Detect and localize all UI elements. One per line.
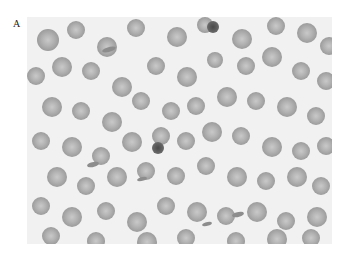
red-blood-cell	[52, 57, 72, 77]
red-blood-cell	[267, 17, 285, 35]
red-blood-cell	[277, 212, 295, 230]
red-blood-cell	[72, 102, 90, 120]
red-blood-cell	[162, 102, 180, 120]
red-blood-cell	[307, 107, 325, 125]
red-blood-cell	[317, 137, 332, 155]
red-blood-cell	[67, 21, 85, 39]
cell-fragment	[202, 220, 213, 227]
red-blood-cell	[137, 232, 157, 244]
red-blood-cell	[247, 202, 267, 222]
red-blood-cell	[177, 132, 195, 150]
dense-cell	[207, 21, 219, 33]
red-blood-cell	[127, 212, 147, 232]
red-blood-cell	[297, 23, 317, 43]
blood-smear-micrograph	[27, 17, 332, 244]
red-blood-cell	[197, 157, 215, 175]
red-blood-cell	[32, 197, 50, 215]
red-blood-cell	[317, 72, 332, 90]
red-blood-cell	[32, 132, 50, 150]
red-blood-cell	[312, 177, 330, 195]
red-blood-cell	[62, 137, 82, 157]
red-blood-cell	[187, 97, 205, 115]
red-blood-cell	[112, 77, 132, 97]
red-blood-cell	[277, 97, 297, 117]
red-blood-cell	[62, 207, 82, 227]
red-blood-cell	[292, 62, 310, 80]
red-blood-cell	[232, 29, 252, 49]
red-blood-cell	[37, 29, 59, 51]
red-blood-cell	[102, 112, 122, 132]
red-blood-cell	[167, 167, 185, 185]
red-blood-cell	[267, 229, 287, 244]
red-blood-cell	[42, 97, 62, 117]
red-blood-cell	[227, 232, 245, 244]
red-blood-cell	[217, 87, 237, 107]
red-blood-cell	[287, 167, 307, 187]
red-blood-cell	[42, 227, 60, 244]
red-blood-cell	[292, 142, 310, 160]
red-blood-cell	[47, 167, 67, 187]
red-blood-cell	[177, 229, 195, 244]
red-blood-cell	[27, 67, 45, 85]
red-blood-cell	[302, 229, 320, 244]
red-blood-cell	[320, 37, 332, 55]
red-blood-cell	[107, 167, 127, 187]
red-blood-cell	[247, 92, 265, 110]
red-blood-cell	[87, 232, 105, 244]
red-blood-cell	[97, 202, 115, 220]
red-blood-cell	[82, 62, 100, 80]
red-blood-cell	[147, 57, 165, 75]
red-blood-cell	[207, 52, 223, 68]
red-blood-cell	[262, 137, 282, 157]
red-blood-cell	[157, 197, 175, 215]
cell-fragment	[87, 160, 100, 169]
red-blood-cell	[167, 27, 187, 47]
red-blood-cell	[187, 202, 207, 222]
red-blood-cell	[177, 67, 197, 87]
red-blood-cell	[132, 92, 150, 110]
red-blood-cell	[257, 172, 275, 190]
panel-label: A	[13, 18, 20, 29]
red-blood-cell	[237, 57, 255, 75]
red-blood-cell	[227, 167, 247, 187]
red-blood-cell	[232, 127, 250, 145]
dense-cell	[152, 142, 164, 154]
red-blood-cell	[127, 19, 145, 37]
red-blood-cell	[77, 177, 95, 195]
red-blood-cell	[202, 122, 222, 142]
red-blood-cell	[307, 207, 327, 227]
red-blood-cell	[122, 132, 142, 152]
red-blood-cell	[262, 47, 282, 67]
